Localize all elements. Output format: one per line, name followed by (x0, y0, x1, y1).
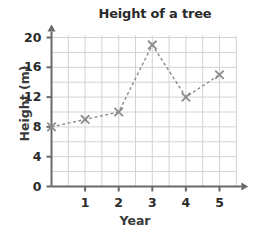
y-tick-label: 8 (16, 119, 42, 134)
x-tick-label: 3 (142, 195, 162, 210)
axis-ticks (47, 38, 220, 192)
x-tick-label: 5 (210, 195, 230, 210)
y-tick-label: 4 (16, 149, 42, 164)
x-tick-label: 1 (75, 195, 95, 210)
chart-figure: Height of a tree Height (m) Year 0481216… (0, 0, 260, 237)
x-tick-label: 2 (109, 195, 129, 210)
axes (48, 25, 249, 191)
y-tick-label: 20 (16, 30, 42, 45)
x-tick-label: 4 (176, 195, 196, 210)
y-tick-label: 0 (16, 179, 42, 194)
y-tick-label: 12 (16, 89, 42, 104)
grid-lines (52, 35, 237, 186)
y-tick-label: 16 (16, 59, 42, 74)
